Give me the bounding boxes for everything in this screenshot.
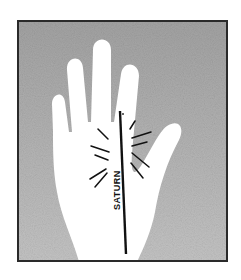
saturn-line-label: SATURN [112,170,122,210]
ink-dot [122,113,124,115]
illustration-frame: SATURN [17,20,228,262]
palm-illustration: SATURN [19,22,228,262]
